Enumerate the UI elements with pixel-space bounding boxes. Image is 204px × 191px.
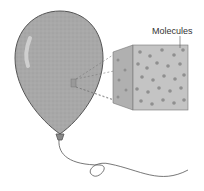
- sample-region: [71, 79, 76, 87]
- balloon: [15, 11, 103, 134]
- cube-side: [113, 45, 133, 110]
- balloon-knot: [56, 134, 64, 140]
- molecules-label: Molecules: [152, 26, 193, 36]
- balloon-string: [59, 140, 188, 176]
